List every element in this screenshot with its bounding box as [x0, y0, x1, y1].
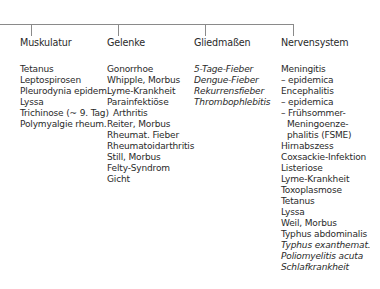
tree-connector-line — [0, 24, 294, 25]
column-heading: Gelenke — [107, 37, 194, 49]
list-item: Dengue-Fieber — [194, 75, 270, 86]
list-item: Polymyalgie rheum. — [20, 119, 110, 130]
column-gelenke: Gelenke GonorrhoeWhipple, MorbusLyme-Kra… — [107, 37, 194, 185]
list-item: 5-Tage-Fieber — [194, 64, 270, 75]
list-item: Schlafkrankheit — [281, 262, 371, 273]
list-item: Coxsackie-Infektion — [281, 152, 371, 163]
list-item: Toxoplasmose — [281, 185, 371, 196]
list-item: Lyssa — [20, 97, 110, 108]
list-item: Lyssa — [281, 207, 371, 218]
list-item: Encephalitis — [281, 86, 371, 97]
item-list: 5-Tage-FieberDengue-FieberRekurrensfiebe… — [194, 64, 270, 108]
column-heading: Muskulatur — [20, 37, 110, 49]
tree-tick-muskulatur — [31, 24, 32, 36]
list-item: Pleurodynia epidem. — [20, 86, 110, 97]
list-item: Lyme-Krankheit — [107, 86, 194, 97]
list-item: Tetanus — [20, 64, 110, 75]
list-item: Felty-Syndrom — [107, 163, 194, 174]
list-item: Reiter, Morbus — [107, 119, 194, 130]
item-list: GonorrhoeWhipple, MorbusLyme-KrankheitPa… — [107, 64, 194, 185]
column-heading: Gliedmaßen — [194, 37, 270, 49]
list-item: Still, Morbus — [107, 152, 194, 163]
list-item: Typhus abdominalis — [281, 229, 371, 240]
list-item: – Frühsommer- — [281, 108, 371, 119]
column-gliedmassen: Gliedmaßen 5-Tage-FieberDengue-FieberRek… — [194, 37, 270, 108]
list-item: Lyme-Krankheit — [281, 174, 371, 185]
list-item: Rheumat. Fieber — [107, 130, 194, 141]
list-item: Hirnabszess — [281, 141, 371, 152]
list-item: – epidemica — [281, 75, 371, 86]
tree-tick-nervensystem — [293, 24, 294, 36]
list-item: Poliomyelitis acuta — [281, 251, 371, 262]
list-item: Leptospirosen — [20, 75, 110, 86]
item-list: TetanusLeptospirosenPleurodynia epidem.L… — [20, 64, 110, 130]
list-item: Trichinose (~ 9. Tag) — [20, 108, 110, 119]
list-item: Meningoenze- — [281, 119, 371, 130]
column-muskulatur: Muskulatur TetanusLeptospirosenPleurodyn… — [20, 37, 110, 130]
list-item: Tetanus — [281, 196, 371, 207]
list-item: Meningitis — [281, 64, 371, 75]
list-item: Gicht — [107, 174, 194, 185]
column-heading: Nervensystem — [281, 37, 371, 49]
tree-tick-gelenke — [118, 24, 119, 36]
list-item: Rekurrensfieber — [194, 86, 270, 97]
list-item: Rheumatoidarthritis — [107, 141, 194, 152]
list-item: phalitis (FSME) — [281, 130, 371, 141]
item-list: Meningitis– epidemicaEncephalitis– epide… — [281, 64, 371, 273]
list-item: Whipple, Morbus — [107, 75, 194, 86]
column-nervensystem: Nervensystem Meningitis– epidemicaEnceph… — [281, 37, 371, 273]
list-item: Thrombophlebitis — [194, 97, 270, 108]
list-item: Weil, Morbus — [281, 218, 371, 229]
list-item: – epidemica — [281, 97, 371, 108]
list-item: Listeriose — [281, 163, 371, 174]
list-item: Typhus exanthemat. — [281, 240, 371, 251]
list-item: Parainfektiöse — [107, 97, 194, 108]
list-item: Arthritis — [107, 108, 194, 119]
list-item: Gonorrhoe — [107, 64, 194, 75]
tree-tick-gliedmassen — [205, 24, 206, 36]
